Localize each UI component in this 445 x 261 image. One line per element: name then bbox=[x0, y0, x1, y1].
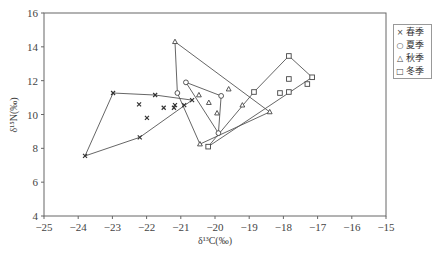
point-circle bbox=[216, 131, 221, 136]
scatter-chart: −25−24−23−22−21−20−19−18−17−16−154681012… bbox=[0, 0, 445, 261]
x-tick-label: −18 bbox=[275, 221, 293, 233]
legend: × 春季 ○ 夏季 △ 秋季 □ 冬季 bbox=[393, 24, 432, 79]
legend-item-autumn: △ 秋季 bbox=[396, 52, 429, 65]
y-tick-label: 14 bbox=[27, 41, 39, 53]
hull-x bbox=[85, 93, 192, 156]
x-tick-label: −25 bbox=[35, 221, 53, 233]
legend-item-winter: □ 冬季 bbox=[396, 65, 429, 78]
y-tick-label: 12 bbox=[27, 75, 38, 87]
point-triangle bbox=[173, 39, 178, 43]
point-triangle bbox=[206, 100, 211, 104]
point-circle bbox=[184, 80, 189, 85]
x-tick-label: −21 bbox=[172, 221, 189, 233]
y-tick-label: 16 bbox=[27, 7, 39, 19]
point-square bbox=[206, 144, 211, 149]
point-square bbox=[287, 77, 292, 82]
point-x bbox=[162, 106, 166, 110]
triangle-marker-icon: △ bbox=[396, 52, 404, 65]
x-marker-icon: × bbox=[396, 26, 404, 39]
point-square bbox=[278, 91, 283, 96]
point-triangle bbox=[267, 109, 272, 113]
x-tick-label: −19 bbox=[241, 221, 259, 233]
x-axis-label: δ¹³C(‰) bbox=[198, 235, 232, 247]
point-triangle bbox=[226, 87, 231, 91]
legend-label: 春季 bbox=[406, 26, 424, 39]
y-tick-label: 8 bbox=[33, 142, 39, 154]
legend-label: 秋季 bbox=[406, 52, 424, 65]
point-square bbox=[287, 54, 292, 59]
x-tick-label: −17 bbox=[309, 221, 327, 233]
legend-item-summer: ○ 夏季 bbox=[396, 39, 429, 52]
x-tick-label: −20 bbox=[206, 221, 224, 233]
point-square bbox=[305, 82, 310, 87]
point-triangle bbox=[198, 142, 203, 146]
legend-item-spring: × 春季 bbox=[396, 26, 429, 39]
x-tick-label: −15 bbox=[377, 221, 395, 233]
point-x bbox=[138, 135, 142, 139]
y-axis-label: δ¹⁵N(‰) bbox=[8, 97, 20, 132]
point-x bbox=[83, 154, 87, 158]
y-tick-label: 6 bbox=[33, 176, 39, 188]
y-tick-label: 4 bbox=[33, 210, 39, 222]
point-triangle bbox=[197, 92, 202, 96]
axes: −25−24−23−22−21−20−19−18−17−16−154681012… bbox=[27, 7, 395, 233]
point-square bbox=[287, 90, 292, 95]
point-circle bbox=[175, 91, 180, 96]
x-tick-label: −23 bbox=[104, 221, 122, 233]
point-square bbox=[252, 90, 257, 95]
x-tick-label: −24 bbox=[70, 221, 88, 233]
point-x bbox=[145, 116, 149, 120]
x-tick-label: −16 bbox=[343, 221, 361, 233]
x-tick-label: −22 bbox=[138, 221, 155, 233]
legend-label: 夏季 bbox=[406, 39, 424, 52]
point-triangle bbox=[215, 111, 220, 115]
square-marker-icon: □ bbox=[396, 65, 404, 78]
convex-hulls bbox=[85, 42, 312, 156]
hull-circle bbox=[186, 82, 221, 133]
y-tick-label: 10 bbox=[27, 109, 39, 121]
point-x bbox=[137, 102, 141, 106]
legend-label: 冬季 bbox=[406, 65, 424, 78]
point-circle bbox=[219, 93, 224, 98]
point-square bbox=[310, 75, 315, 80]
circle-marker-icon: ○ bbox=[396, 39, 404, 52]
